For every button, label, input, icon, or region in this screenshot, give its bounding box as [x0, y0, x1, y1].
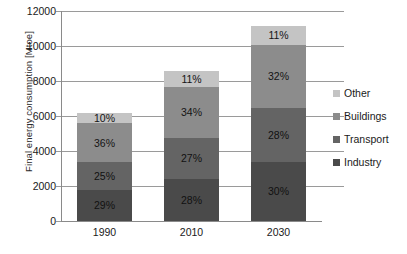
bar-segment[interactable]: 36%: [77, 123, 132, 162]
bar-segment[interactable]: 34%: [164, 87, 219, 138]
y-axis-tick-label: 10000: [4, 40, 56, 52]
bar-segment[interactable]: 10%: [77, 113, 132, 124]
bar-segment-label: 25%: [94, 171, 115, 182]
bar-segment-label: 29%: [94, 200, 115, 211]
bar-segment[interactable]: 11%: [164, 71, 219, 88]
x-axis-tick-label: 2030: [267, 226, 290, 238]
bar-segment[interactable]: 32%: [251, 45, 306, 107]
bar-segment-label: 11%: [181, 74, 201, 85]
x-axis-tick-labels: 199020102030: [61, 226, 322, 246]
x-axis-tick-label: 1990: [93, 226, 116, 238]
plot-area: 10%36%25%29%11%34%27%28%11%32%28%30%: [61, 11, 322, 221]
bar-group[interactable]: 10%36%25%29%: [77, 11, 132, 221]
bar-segment[interactable]: 28%: [251, 108, 306, 163]
legend-swatch-icon: [333, 136, 340, 143]
bar-segment-label: 28%: [181, 195, 202, 206]
legend-label: Buildings: [344, 110, 387, 122]
y-axis-tick-right: [322, 46, 344, 47]
bar-segment[interactable]: 30%: [251, 162, 306, 221]
gridline: [61, 221, 322, 222]
y-axis-tick-labels: 020004000600080001000012000: [2, 11, 56, 221]
bar-segment-label: 10%: [94, 113, 115, 124]
bars-layer: 10%36%25%29%11%34%27%28%11%32%28%30%: [61, 11, 322, 221]
bar-segment-label: 27%: [181, 153, 202, 164]
bar-stack: 10%36%25%29%: [77, 113, 132, 221]
bar-segment[interactable]: 29%: [77, 190, 132, 221]
y-axis-tick-right: [322, 81, 344, 82]
bar-group[interactable]: 11%32%28%30%: [251, 11, 306, 221]
y-axis-tick-label: 6000: [4, 110, 56, 122]
bar-group[interactable]: 11%34%27%28%: [164, 11, 219, 221]
bar-segment-label: 32%: [268, 71, 289, 82]
legend-label: Other: [344, 87, 370, 99]
legend-item[interactable]: Other: [333, 83, 407, 103]
legend-item[interactable]: Transport: [333, 129, 407, 149]
y-axis-tick-label: 2000: [4, 180, 56, 192]
bar-segment-label: 30%: [268, 186, 289, 197]
y-axis-tick-label: 0: [4, 215, 56, 227]
y-axis-tick-label: 4000: [4, 145, 56, 157]
y-axis-tick-label: 8000: [4, 75, 56, 87]
legend-swatch-icon: [333, 159, 340, 166]
legend-swatch-icon: [333, 113, 340, 120]
legend-label: Transport: [344, 133, 389, 145]
bar-segment[interactable]: 28%: [164, 179, 219, 221]
legend-swatch-icon: [333, 90, 340, 97]
bar-segment[interactable]: 25%: [77, 162, 132, 189]
y-axis-tick: [56, 221, 61, 222]
y-axis-tick-right: [322, 186, 344, 187]
chart-legend: OtherBuildingsTransportIndustry: [333, 83, 407, 175]
bar-segment-label: 11%: [268, 30, 288, 41]
bar-segment[interactable]: 11%: [251, 26, 306, 46]
stacked-bar-chart: Final energy consumption [Mtoe] 02000400…: [0, 0, 407, 254]
bar-stack: 11%32%28%30%: [251, 26, 306, 221]
y-axis-tick-label: 12000: [4, 5, 56, 17]
bar-stack: 11%34%27%28%: [164, 71, 219, 221]
bar-segment-label: 28%: [268, 130, 289, 141]
bar-segment-label: 34%: [181, 107, 202, 118]
x-axis-tick-label: 2010: [180, 226, 203, 238]
bar-segment[interactable]: 27%: [164, 138, 219, 179]
y-axis-tick-right: [322, 11, 344, 12]
legend-item[interactable]: Industry: [333, 152, 407, 172]
legend-label: Industry: [344, 156, 381, 168]
bar-segment-label: 36%: [94, 138, 115, 149]
legend-item[interactable]: Buildings: [333, 106, 407, 126]
